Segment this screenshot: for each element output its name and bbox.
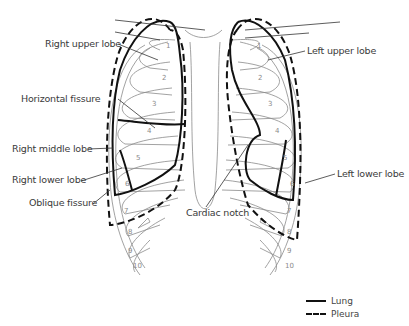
svg-text:7: 7 <box>124 207 128 215</box>
label-cardiac-notch: Cardiac notch <box>186 207 249 218</box>
svg-text:1: 1 <box>166 42 170 50</box>
svg-text:5: 5 <box>136 154 140 162</box>
svg-text:6: 6 <box>125 180 130 188</box>
svg-text:7: 7 <box>287 207 291 215</box>
svg-text:8: 8 <box>128 228 132 236</box>
legend-item-lung: Lung <box>306 294 359 307</box>
label-horizontal-fissure: Horizontal fissure <box>21 93 100 104</box>
rib-numbers: 1 2 3 4 5 6 7 8 9 10 1 2 3 4 5 6 7 8 9 1… <box>124 42 295 270</box>
svg-text:8: 8 <box>287 228 291 236</box>
label-right-upper-lobe: Right upper lobe <box>45 38 121 49</box>
legend-item-pleura: Pleura <box>306 307 359 320</box>
svg-text:10: 10 <box>133 262 142 270</box>
svg-text:2: 2 <box>162 74 166 82</box>
legend: Lung Pleura <box>306 294 359 320</box>
svg-text:6: 6 <box>290 180 295 188</box>
svg-text:3: 3 <box>268 100 272 108</box>
svg-text:5: 5 <box>283 154 287 162</box>
label-right-middle-lobe: Right middle lobe <box>12 143 92 154</box>
label-oblique-fissure: Oblique fissure <box>29 197 97 208</box>
label-right-lower-lobe: Right lower lobe <box>12 174 86 185</box>
label-left-lower-lobe: Left lower lobe <box>337 168 404 179</box>
svg-text:1: 1 <box>257 42 261 50</box>
svg-text:9: 9 <box>128 247 132 255</box>
legend-label: Pleura <box>331 309 359 319</box>
svg-text:10: 10 <box>285 262 294 270</box>
solid-line-icon <box>306 300 326 302</box>
lung-outline <box>113 21 295 200</box>
label-left-upper-lobe: Left upper lobe <box>307 45 376 56</box>
svg-text:9: 9 <box>287 247 291 255</box>
legend-label: Lung <box>331 296 353 306</box>
rib-cage <box>109 30 301 275</box>
svg-text:4: 4 <box>275 127 280 135</box>
svg-text:3: 3 <box>152 100 156 108</box>
svg-text:2: 2 <box>258 74 262 82</box>
svg-text:4: 4 <box>147 127 152 135</box>
dashed-line-icon <box>306 313 326 315</box>
